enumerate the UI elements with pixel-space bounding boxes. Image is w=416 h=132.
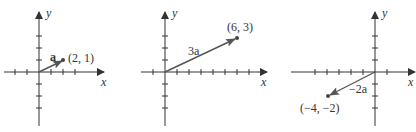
vector-label: a	[50, 50, 56, 64]
x-axis-label: x	[260, 75, 267, 89]
point-label: (−4, −2)	[300, 101, 340, 115]
point-label: (6, 3)	[227, 20, 253, 34]
y-axis-label: y	[171, 6, 178, 20]
x-axis-label: x	[407, 75, 414, 89]
point-marker	[326, 94, 330, 98]
panel-3a: 3a (6, 3) x y	[141, 6, 267, 126]
x-axis-label: x	[100, 75, 107, 89]
point-marker	[235, 36, 239, 40]
panel-neg-2a: −2a (−4, −2) x y	[291, 6, 415, 126]
vector-label: −2a	[349, 82, 368, 96]
point-label: (2, 1)	[68, 51, 94, 65]
y-axis-label: y	[45, 6, 52, 20]
point-marker	[61, 58, 65, 62]
vector-label: 3a	[188, 44, 200, 58]
y-axis-label: y	[381, 6, 388, 20]
panel-a: a (2, 1) x y	[4, 6, 107, 126]
vector-scaling-figure: a (2, 1) x y 3a (6, 3) x	[0, 0, 416, 132]
vector-3a	[165, 39, 235, 72]
